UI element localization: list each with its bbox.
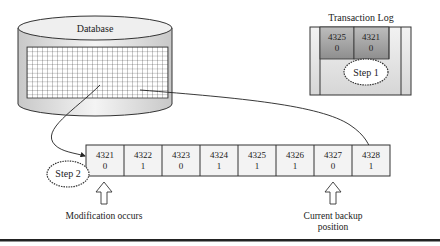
modification-label: Modification occurs (66, 211, 143, 221)
page-number: 4328 (362, 150, 381, 160)
page-flag: 1 (141, 161, 146, 171)
bottom-rule (0, 239, 440, 242)
page-number: 4326 (286, 150, 305, 160)
page-flag: 1 (255, 161, 260, 171)
page-number: 4321 (96, 150, 114, 160)
transaction-log-title: Transaction Log (328, 12, 393, 23)
log-entry-flag: 0 (369, 43, 374, 53)
page-flag: 1 (217, 161, 222, 171)
backup-label-line2: position (318, 222, 349, 232)
page-number: 4327 (324, 150, 343, 160)
page-number: 4322 (134, 150, 152, 160)
page-flag: 0 (103, 161, 108, 171)
page-row (86, 145, 390, 176)
backup-arrow-icon (325, 182, 341, 204)
log-entry-page: 4321 (362, 32, 380, 42)
page-flag: 1 (293, 161, 298, 171)
backup-label-line1: Current backup (304, 211, 363, 221)
log-entry-flag: 0 (335, 43, 340, 53)
diagram-canvas: Database Transaction Log 4325 0 4321 0 S… (0, 0, 440, 246)
step2-label: Step 2 (55, 168, 80, 179)
page-flag: 0 (179, 161, 184, 171)
page-number: 4325 (248, 150, 267, 160)
page-number: 4324 (210, 150, 229, 160)
database-label: Database (77, 23, 114, 34)
page-flag: 1 (369, 161, 374, 171)
step1-label: Step 1 (353, 67, 378, 78)
modification-arrow-icon (96, 182, 112, 204)
page-number: 4323 (172, 150, 191, 160)
page-flag: 0 (331, 161, 336, 171)
log-entry-page: 4325 (328, 32, 347, 42)
